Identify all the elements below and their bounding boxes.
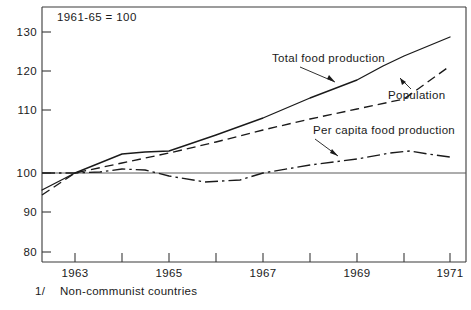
x-tick-label-1971: 1971: [436, 267, 463, 279]
y-tick-label-130: 130: [17, 26, 37, 38]
x-tick-label-1963: 1963: [61, 267, 88, 279]
series-label-population: Population: [388, 89, 445, 101]
y-axis-labels: 130 120 110 100 90 80: [17, 26, 37, 258]
index-note: 1961-65 = 100: [57, 11, 137, 23]
series-label-per-capita-food-production: Per capita food production: [313, 124, 455, 136]
chart-figure: 130 120 110 100 90 80 1963 1965 1967 196…: [0, 0, 471, 310]
annotation-per-capita-food-production: Per capita food production: [313, 124, 455, 156]
annotation-population: Population: [388, 78, 445, 101]
x-axis-labels: 1963 1965 1967 1969 1971: [61, 267, 463, 279]
footnote-marker: 1/: [35, 285, 46, 297]
y-tick-label-100: 100: [17, 167, 37, 179]
arrowhead-per-capita-food-production: [330, 149, 338, 156]
line-chart: 130 120 110 100 90 80 1963 1965 1967 196…: [0, 0, 471, 310]
x-tick-label-1969: 1969: [343, 267, 370, 279]
arrowhead-population: [400, 78, 406, 85]
series-line-total-food-production: [42, 37, 450, 190]
x-tick-label-1965: 1965: [155, 267, 182, 279]
y-axis-ticks: [42, 32, 51, 252]
series-line-per-capita-food-production: [42, 151, 450, 182]
footnote-text: Non-communist countries: [60, 285, 197, 297]
arrowhead-total-food-production: [327, 75, 335, 82]
footnote: 1/ Non-communist countries: [35, 285, 197, 297]
annotation-total-food-production: Total food production: [272, 52, 385, 82]
y-tick-label-90: 90: [23, 206, 37, 218]
y-tick-label-110: 110: [17, 104, 37, 116]
x-axis-ticks: [75, 253, 450, 262]
y-tick-label-120: 120: [17, 65, 37, 77]
x-tick-label-1967: 1967: [249, 267, 276, 279]
series-label-total-food-production: Total food production: [272, 52, 385, 64]
y-tick-label-80: 80: [23, 246, 37, 258]
